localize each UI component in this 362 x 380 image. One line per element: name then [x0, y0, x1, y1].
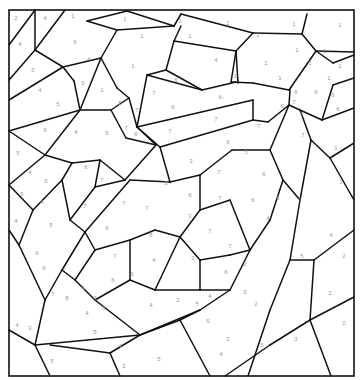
region-edge [316, 51, 354, 52]
region-number[interactable]: 6- [218, 94, 223, 100]
color-by-number-board[interactable]: 24111111461111145141114561115176-6665767… [0, 0, 362, 380]
region-edge [289, 90, 290, 105]
region-edge [253, 33, 302, 34]
